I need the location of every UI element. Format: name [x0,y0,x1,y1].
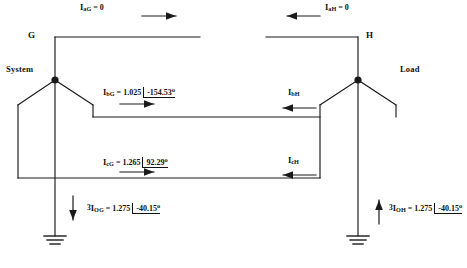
current-label-3ioh: 3IOH = 1.275-40.15o [389,203,462,214]
iog-equals: = [106,204,111,213]
icg-degree: o [164,156,167,163]
bus-h-label: H [366,31,373,40]
icg-angle-bracket: 92.29o [142,157,168,168]
iah-subscript: aH [328,5,336,12]
current-label-3iog: 3IOG = 1.275-40.15o [87,203,160,214]
arrow-iag-head [166,12,176,20]
iag-subscript: aG [83,5,91,12]
current-label-ibh: IbH [288,88,300,97]
ioh-equals: = [408,204,413,213]
arrow-iah-head [287,12,297,20]
system-label: System [6,65,33,74]
ibg-angle-bracket: -154.53o [143,87,175,98]
system-left-leg [18,80,55,105]
current-label-ich: IcH [288,156,299,165]
ibg-angle: -154.53 [147,88,172,97]
load-left-leg [320,80,358,105]
ibg-subscript: bG [106,90,114,97]
arrow-3ioh-head [375,200,383,210]
iog-subscript: OG [94,206,104,213]
icg-equals: = [116,158,121,167]
ioh-angle-bracket: -40.15o [434,203,462,214]
system-right-leg [55,80,93,105]
iag-value: 0 [100,3,104,12]
arrow-icg-head [144,168,154,176]
ioh-magnitude: 1.275 [414,204,432,213]
ibh-subscript: bH [291,90,299,97]
ibg-equals: = [117,88,122,97]
load-right-leg [358,80,396,105]
icg-magnitude: 1.265 [122,158,140,167]
bus-g-node-dot [51,76,58,83]
current-label-ibg: IbG = 1.025-154.53o [103,87,175,98]
circuit-wiring [0,0,467,268]
current-label-iag: IaG = 0 [80,3,104,12]
ioh-angle: -40.15 [438,204,459,213]
ich-subscript: cH [291,158,299,165]
iog-angle-bracket: -40.15o [132,203,160,214]
iah-value: 0 [345,3,349,12]
arrow-ibh-head [283,104,293,112]
iah-equals: = [338,3,343,12]
ibg-degree: o [172,86,175,93]
bus-g-label: G [28,31,35,40]
ioh-degree: o [459,202,462,209]
iog-degree: o [157,202,160,209]
current-label-icg: IcG = 1.26592.29o [103,157,168,168]
arrow-3iog-head [69,210,77,220]
current-label-iah: IaH = 0 [325,3,349,12]
ioh-subscript: OH [396,206,406,213]
icg-subscript: cG [106,160,114,167]
iog-angle: -40.15 [136,204,157,213]
iag-equals: = [93,3,98,12]
bus-h-node-dot [354,76,361,83]
arrow-ibg-head [144,100,154,108]
iog-magnitude: 1.275 [112,204,130,213]
icg-angle: 92.29 [146,158,164,167]
diagram-canvas: G System H Load IaG = 0 IaH = 0 IbG = 1.… [0,0,467,268]
ibg-magnitude: 1.025 [123,88,141,97]
load-label: Load [400,65,420,74]
